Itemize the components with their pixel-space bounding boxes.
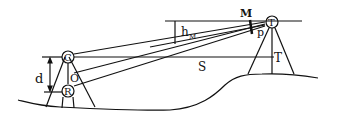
label-h-subscript: M [189, 33, 196, 41]
sight-line-r-to-t [74, 26, 265, 86]
sight-line-o-to-t [74, 24, 265, 73]
left-tripod-inner-right [73, 97, 74, 108]
terrain-line [18, 74, 318, 111]
d-arrow-top [48, 58, 52, 63]
label-d: d [35, 71, 43, 86]
label-t-station: T [268, 17, 275, 28]
label-m: M [240, 7, 252, 20]
left-tripod-inner-left [62, 97, 63, 108]
label-r: R [64, 86, 72, 97]
label-c: C [64, 52, 72, 63]
sight-line-c-to-t [74, 22, 265, 54]
label-h: h [181, 25, 189, 39]
label-p: p [257, 26, 264, 39]
target-mark-m [250, 20, 252, 34]
left-tripod-leg-left [46, 57, 65, 107]
label-o: O [70, 72, 79, 85]
label-s: S [198, 60, 206, 74]
surveying-diagram: d C O R h M M T p S T [0, 0, 341, 122]
diagram-canvas: d C O R h M M T p S T [0, 0, 341, 122]
label-t-ground: T [274, 51, 282, 65]
d-arrow-bottom [48, 86, 52, 91]
